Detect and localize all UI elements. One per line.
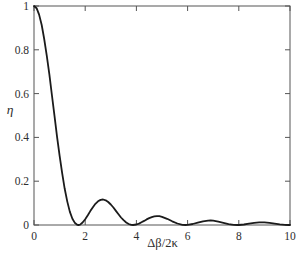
figure: 024681000.20.40.60.81 η Δβ/2κ xyxy=(0,0,303,257)
x-tick-label: 10 xyxy=(284,230,296,242)
y-axis-label: η xyxy=(2,102,18,118)
y-tick-label: 0.8 xyxy=(15,44,30,56)
y-tick-label: 0.6 xyxy=(15,88,30,100)
y-tick-label: 0.2 xyxy=(15,175,30,187)
x-axis-label: Δβ/2κ xyxy=(122,236,203,251)
y-tick-label: 1 xyxy=(23,0,29,12)
x-tick-label: 2 xyxy=(82,230,88,242)
efficiency-curve xyxy=(34,6,290,225)
y-tick-label: 0 xyxy=(23,219,29,231)
y-tick-label: 0.4 xyxy=(15,131,30,143)
plot-frame xyxy=(34,6,290,225)
x-tick-label: 0 xyxy=(31,230,37,242)
plot-canvas: 024681000.20.40.60.81 xyxy=(0,0,303,257)
x-tick-label: 8 xyxy=(236,230,242,242)
